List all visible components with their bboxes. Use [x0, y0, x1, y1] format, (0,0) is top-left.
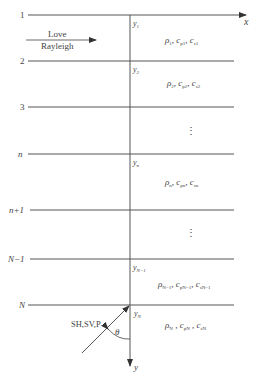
- layer-n-properties: ρn, cpn, csn: [164, 177, 199, 188]
- incident-wave-label: SH,SV,P: [71, 319, 101, 329]
- love-label: Love: [48, 29, 67, 39]
- layer-properties: ρ1, cp1, cs1 ρ2, cp2, cs2 ⋮ ρn, cpn, csn…: [157, 35, 211, 331]
- depth-labels: y1 y2 yn yN−1 yN: [132, 19, 146, 319]
- interface-label-N-minus-1: N−1: [7, 254, 25, 264]
- depth-label-yN-minus-1: yN−1: [132, 263, 146, 273]
- depth-label-yn: yn: [132, 158, 140, 168]
- rayleigh-label: Rayleigh: [41, 41, 74, 51]
- interface-lines: [28, 15, 246, 305]
- interface-labels: 1 2 3 n n+1 N−1 N: [7, 10, 26, 310]
- interface-label-1: 1: [20, 10, 25, 20]
- y-axis-label: y: [133, 362, 138, 372]
- depth-label-y1: y1: [132, 19, 139, 29]
- layered-model-diagram: x y 1 2 3 n n+1 N−1 N Love Rayleigh y1 y…: [0, 0, 260, 387]
- interface-label-3: 3: [20, 102, 25, 112]
- interface-label-n: n: [18, 149, 23, 159]
- layer-N-minus-1-properties: ρN−1, cpN−1, csN−1: [157, 279, 211, 290]
- incident-wave: SH,SV,P θ: [71, 306, 130, 353]
- interface-label-n-plus-1: n+1: [9, 205, 24, 215]
- x-axis-label: x: [243, 16, 249, 27]
- layer-N-properties: ρN , cpN , csN: [164, 320, 207, 331]
- depth-label-y2: y2: [132, 65, 140, 75]
- interface-label-2: 2: [20, 56, 25, 66]
- theta-label: θ: [115, 327, 120, 337]
- ellipsis-1: ⋮: [186, 125, 196, 136]
- ellipsis-2: ⋮: [186, 227, 196, 238]
- layer-2-properties: ρ2, cp2, cs2: [166, 78, 201, 89]
- wave-direction-arrow: Love Rayleigh: [26, 29, 96, 51]
- incident-wave-arrow: [82, 306, 129, 353]
- interface-label-N: N: [18, 300, 26, 310]
- depth-label-yN: yN: [133, 309, 142, 319]
- layer-1-properties: ρ1, cp1, cs1: [164, 35, 199, 46]
